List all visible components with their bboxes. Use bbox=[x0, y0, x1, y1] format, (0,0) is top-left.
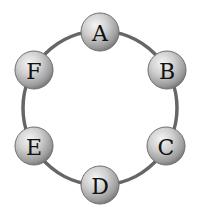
node-b: B bbox=[148, 51, 186, 89]
node-label: F bbox=[26, 59, 41, 84]
ring-edge bbox=[23, 31, 177, 185]
node-d: D bbox=[81, 166, 119, 204]
node-e: E bbox=[15, 127, 53, 165]
node-label: B bbox=[159, 59, 175, 84]
node-f: F bbox=[15, 51, 53, 89]
node-c: C bbox=[147, 127, 185, 165]
node-label: D bbox=[91, 174, 109, 199]
ring-diagram: ABCDEF bbox=[0, 0, 198, 221]
node-label: C bbox=[158, 135, 175, 160]
node-a: A bbox=[81, 13, 119, 51]
node-label: E bbox=[26, 135, 42, 160]
node-label: A bbox=[91, 21, 109, 46]
